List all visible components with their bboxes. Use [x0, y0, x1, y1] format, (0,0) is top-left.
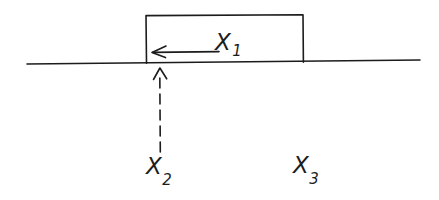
- label-x2-base: X: [146, 153, 162, 179]
- x1-arrow-shaft: [153, 52, 219, 53]
- x1-force-arrow: [152, 46, 219, 58]
- label-x3-subscript: 3: [309, 170, 319, 188]
- label-x3-base: X: [293, 152, 309, 178]
- label-x2-subscript: 2: [162, 171, 172, 189]
- diagram-canvas: X1 X2 X3: [0, 0, 439, 200]
- label-x1-base: X: [215, 29, 231, 55]
- x2-arrow-shaft: [160, 74, 161, 152]
- x2-pointer-arrow: [154, 68, 167, 152]
- surface-line: [27, 60, 420, 64]
- label-x1-subscript: 1: [232, 42, 242, 60]
- label-x3: X3: [293, 154, 319, 182]
- label-x1: X1: [215, 31, 241, 54]
- label-x2: X2: [146, 155, 172, 183]
